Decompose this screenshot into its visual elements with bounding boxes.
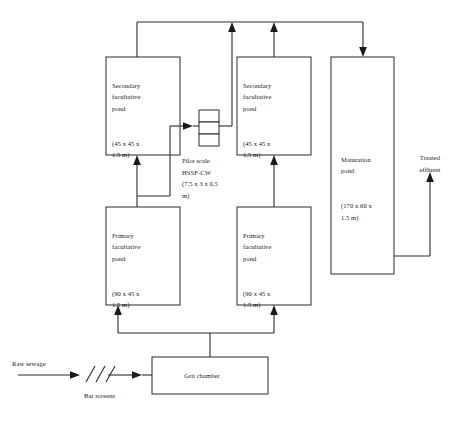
maturation-pond-inlet-arrow-head	[359, 47, 367, 57]
bar-screen-outlet-arrow-head	[132, 371, 142, 379]
primary-pond-right-label: Primary facultative pond (90 x 45 x 1.5 …	[243, 218, 305, 322]
bar-screens-icon	[86, 366, 115, 382]
secondary-pond-left-label: Secondary facultative pond (45 x 45 x 1.…	[112, 68, 174, 172]
pilot-cw-box	[199, 110, 219, 146]
primary-pond-right-dims: (90 x 45 x 1.5 m)	[243, 288, 305, 311]
secondary-pond-right-label: Secondary facultative pond (45 x 45 x 1.…	[243, 68, 305, 172]
raw-sewage-arrow-head	[70, 371, 80, 379]
secondary-pond-left-name: Secondary facultative pond	[112, 80, 174, 115]
bar-screens-label: Bar screens	[84, 390, 132, 402]
pilot-cw-outlet-arrow-head	[228, 22, 236, 32]
raw-sewage-label: Raw sewage	[12, 358, 64, 370]
treated-effluent-label: Treated effluent	[408, 152, 452, 175]
primary-pond-left-label: Primary facultative pond (90 x 45 x 1.5 …	[112, 218, 174, 322]
maturation-pond-label: Maturation pond (170 x 60 x 1.5 m)	[341, 142, 397, 235]
secondary-pond-right-dims: (45 x 45 x 1.5 m)	[243, 138, 305, 161]
pilot-cw-label: Pilot scale HSSF-CW (7.5 x 3 x 0.5 m)	[182, 155, 226, 201]
maturation-pond-dims: (170 x 60 x 1.5 m)	[341, 200, 397, 223]
maturation-pond-name: Maturation pond	[341, 154, 397, 177]
secondary-pond-left-dims: (45 x 45 x 1.5 m)	[112, 138, 174, 161]
secondary-pond-right-outlet-arrow-head	[270, 22, 278, 32]
grit-chamber-label: Grit chamber	[168, 370, 236, 382]
pilot-cw-inlet-arrow-head	[183, 122, 193, 130]
flow-diagram: Secondary facultative pond (45 x 45 x 1.…	[0, 0, 461, 423]
secondary-pond-right-name: Secondary facultative pond	[243, 80, 305, 115]
primary-pond-left-dims: (90 x 45 x 1.5 m)	[112, 288, 174, 311]
primary-pond-left-name: Primary facultative pond	[112, 230, 174, 265]
primary-pond-right-name: Primary facultative pond	[243, 230, 305, 265]
